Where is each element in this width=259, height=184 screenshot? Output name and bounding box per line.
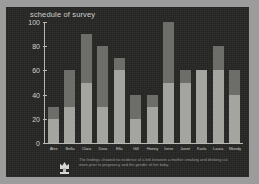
bar-segment-upper bbox=[48, 107, 59, 119]
x-tick-label: Irene bbox=[163, 146, 174, 151]
y-tick-label: 100 bbox=[28, 19, 40, 26]
bar-segment-upper bbox=[97, 46, 108, 107]
y-tick-label: 20 bbox=[32, 115, 40, 122]
x-tick-label: Karla bbox=[196, 146, 207, 151]
bar-segment-lower bbox=[213, 70, 224, 143]
bar-segment-lower bbox=[48, 119, 59, 143]
bar-honey[interactable] bbox=[147, 22, 158, 143]
x-tick-label: Ella bbox=[114, 146, 125, 151]
bar-laura[interactable] bbox=[213, 22, 224, 143]
bar-segment-lower bbox=[81, 83, 92, 144]
bar-segment-lower bbox=[130, 119, 141, 143]
bar-segment-lower bbox=[114, 70, 125, 143]
bar-segment-upper bbox=[213, 46, 224, 70]
bar-segment-upper bbox=[147, 95, 158, 107]
x-tick-label: Janet bbox=[180, 146, 191, 151]
y-tick-label: 40 bbox=[32, 91, 40, 98]
footer-note: The findings showed no evidence of a lin… bbox=[58, 157, 238, 177]
bar-segment-lower bbox=[196, 70, 207, 143]
footer-caption: The findings showed no evidence of a lin… bbox=[79, 157, 229, 167]
bar-gill[interactable] bbox=[130, 22, 141, 143]
slide-page: schedule of survey 020406080100 AlexBell… bbox=[0, 0, 259, 184]
bar-segment-upper bbox=[130, 95, 141, 119]
x-tick-label: Alex bbox=[48, 146, 59, 151]
bar-mandy[interactable] bbox=[229, 22, 240, 143]
bar-segment-lower bbox=[64, 107, 75, 143]
x-tick-label: Gill bbox=[130, 146, 141, 151]
bar-segment-upper bbox=[64, 70, 75, 106]
trophy-base bbox=[60, 172, 69, 174]
bar-segment-lower bbox=[163, 83, 174, 144]
x-tick-label: Bella bbox=[64, 146, 75, 151]
y-tick-label: 60 bbox=[32, 67, 40, 74]
bar-segment-upper bbox=[180, 70, 191, 82]
bar-alex[interactable] bbox=[48, 22, 59, 143]
bar-dora[interactable] bbox=[97, 22, 108, 143]
bar-clara[interactable] bbox=[81, 22, 92, 143]
bar-segment-lower bbox=[229, 95, 240, 143]
bar-segment-upper bbox=[163, 22, 174, 83]
bar-segment-lower bbox=[97, 107, 108, 143]
x-tick-label: Mandy bbox=[229, 146, 240, 151]
chart-slide: schedule of survey 020406080100 AlexBell… bbox=[6, 7, 249, 177]
chart-plot-area: 020406080100 bbox=[44, 22, 243, 144]
bar-segment-upper bbox=[81, 34, 92, 82]
y-tick-label: 80 bbox=[32, 43, 40, 50]
trophy-icon bbox=[58, 159, 72, 177]
x-tick-label: Honey bbox=[147, 146, 158, 151]
bar-segment-lower bbox=[180, 83, 191, 144]
bar-irene[interactable] bbox=[163, 22, 174, 143]
y-tick-label: 0 bbox=[36, 140, 40, 147]
x-tick-label: Dora bbox=[97, 146, 108, 151]
bar-bella[interactable] bbox=[64, 22, 75, 143]
bar-karla[interactable] bbox=[196, 22, 207, 143]
bar-series bbox=[45, 22, 243, 143]
x-axis-line bbox=[44, 143, 243, 144]
x-axis-labels: AlexBellaClaraDoraEllaGillHoneyIreneJane… bbox=[45, 146, 243, 151]
bar-ella[interactable] bbox=[114, 22, 125, 143]
bar-janet[interactable] bbox=[180, 22, 191, 143]
x-tick-label: Clara bbox=[81, 146, 92, 151]
bar-segment-upper bbox=[229, 70, 240, 94]
y-tick-mark bbox=[43, 143, 47, 144]
bar-segment-upper bbox=[114, 58, 125, 70]
x-tick-label: Laura bbox=[213, 146, 224, 151]
bar-segment-lower bbox=[147, 107, 158, 143]
